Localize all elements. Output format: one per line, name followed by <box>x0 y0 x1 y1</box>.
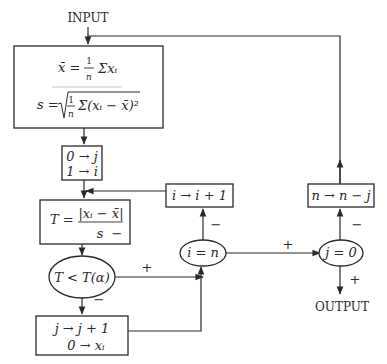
init-line2: 1 → i <box>66 164 98 179</box>
sd-den: n <box>68 109 74 119</box>
j-increment-box: j → j + 1 0 → xᵢ <box>36 316 128 355</box>
t-sign: − <box>112 226 123 241</box>
j-equals-zero-minus-label: − <box>352 217 363 232</box>
mean-rhs: Σxᵢ <box>97 61 118 76</box>
mean-num: 1 <box>86 56 92 66</box>
init-line1: 0 → j <box>66 149 97 164</box>
i-equals-n-decision: i = n <box>180 240 226 266</box>
mean-lhs: x̄ = <box>58 60 80 75</box>
j-increment-line1: j → j + 1 <box>52 321 110 336</box>
t-lhs: T = <box>50 212 74 227</box>
t-compare-decision: T < T(α) <box>49 256 115 298</box>
i-increment-box: i → i + 1 <box>166 184 233 207</box>
t-box: T = |xᵢ − x̄| s − <box>40 200 130 244</box>
j-equals-zero-label: j = 0 <box>322 245 356 260</box>
input-label: INPUT <box>67 11 108 25</box>
n-update-box: n → n − j <box>308 184 374 207</box>
j-increment-line2: 0 → xᵢ <box>67 338 105 353</box>
sd-num: 1 <box>68 95 74 105</box>
j-equals-zero-plus-label: + <box>350 272 361 287</box>
init-box: 0 → j 1 → i <box>62 146 102 180</box>
t-compare-minus-label: − <box>94 292 105 307</box>
i-increment-label: i → i + 1 <box>172 188 227 203</box>
i-equals-n-label: i = n <box>187 245 219 260</box>
i-equals-n-plus-label: + <box>283 237 294 252</box>
sd-rhs: Σ(xᵢ − x̄)² <box>77 98 139 113</box>
i-equals-n-minus-label: − <box>211 217 222 232</box>
flowchart: INPUT x̄ = 1 n Σxᵢ s = 1 n Σ(xᵢ − x̄)² 0… <box>0 0 387 364</box>
j-equals-zero-decision: j = 0 <box>319 240 363 266</box>
t-num: |xᵢ − x̄| <box>78 206 123 221</box>
sd-lhs: s = <box>37 97 59 112</box>
stats-box: x̄ = 1 n Σxᵢ s = 1 n Σ(xᵢ − x̄)² <box>14 46 163 128</box>
t-compare-plus-label: + <box>142 260 153 275</box>
n-update-label: n → n − j <box>311 188 370 203</box>
t-compare-label: T < T(α) <box>54 270 109 285</box>
output-label: OUTPUT <box>315 300 369 314</box>
mean-den: n <box>86 72 92 82</box>
t-den: s <box>97 226 104 241</box>
